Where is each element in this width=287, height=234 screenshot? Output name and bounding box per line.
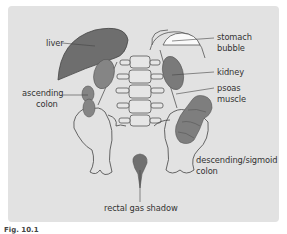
label-ascending-line2: colon bbox=[36, 99, 58, 109]
label-stomach-line2: bubble bbox=[217, 43, 245, 53]
figure-caption: Fig. 10.1 bbox=[4, 226, 39, 234]
ascending-colon-shape bbox=[82, 86, 95, 117]
lumbar-spine bbox=[116, 56, 164, 126]
label-psoas-line1: psoas bbox=[217, 83, 241, 93]
left-kidney-shape bbox=[159, 54, 187, 92]
descending-colon-shape bbox=[176, 96, 213, 144]
label-descending-line1: descending/sigmoid bbox=[196, 155, 277, 165]
label-ascending-line1: ascending bbox=[22, 88, 64, 98]
label-kidney: kidney bbox=[217, 67, 244, 77]
label-descending-line2: colon bbox=[196, 166, 218, 176]
label-psoas-line2: muscle bbox=[217, 94, 246, 104]
label-liver: liver bbox=[46, 38, 64, 48]
stomach-bubble-shape bbox=[163, 33, 200, 45]
liver-shape bbox=[58, 28, 128, 80]
label-rectal-gas: rectal gas shadow bbox=[104, 203, 178, 213]
label-stomach-line1: stomach bbox=[217, 32, 252, 42]
